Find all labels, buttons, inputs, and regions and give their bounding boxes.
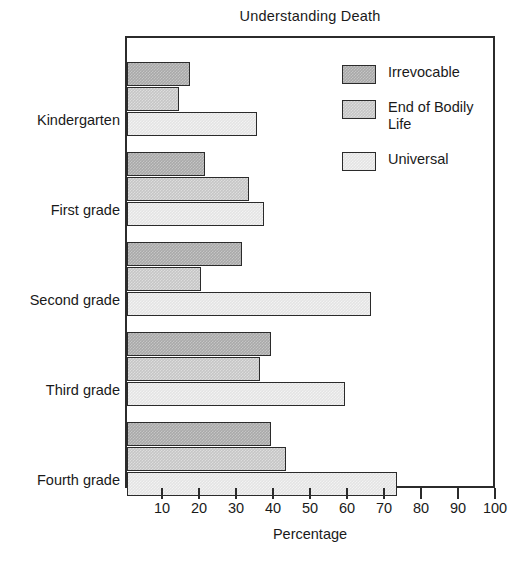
bar-irrevocable: [127, 152, 205, 176]
chart-container: Understanding Death Kindergarten First g…: [0, 0, 528, 564]
legend-label: End of Bodily Life: [388, 99, 473, 133]
bar-irrevocable: [127, 332, 271, 356]
x-axis-tick: [494, 488, 496, 499]
legend-entry: Irrevocable: [342, 64, 460, 84]
x-axis-tick-label: 30: [228, 500, 244, 516]
legend-label: Irrevocable: [388, 64, 460, 81]
x-axis-title: Percentage: [125, 526, 495, 542]
x-axis-tick: [161, 488, 163, 499]
x-axis-tick: [235, 488, 237, 499]
x-axis-tick-label: 70: [376, 500, 392, 516]
legend-entry: End of Bodily Life: [342, 99, 473, 133]
category-axis-labels: Kindergarten First grade Second grade Th…: [0, 36, 120, 488]
x-axis-tick-label: 40: [265, 500, 281, 516]
category-label: Kindergarten: [0, 112, 120, 128]
bar-end-of-bodily-life: [127, 447, 286, 471]
x-axis-tick-label: 20: [191, 500, 207, 516]
x-axis-tick: [272, 488, 274, 499]
x-axis-tick-label: 100: [483, 500, 507, 516]
legend-label: Universal: [388, 151, 448, 168]
x-axis-tick: [309, 488, 311, 499]
x-axis-tick: [198, 488, 200, 499]
x-axis-tick-labels: 102030405060708090100: [125, 500, 495, 522]
legend-entry: Universal: [342, 151, 448, 171]
x-axis-tick-label: 10: [154, 500, 170, 516]
legend-swatch-end-of-bodily-life: [342, 100, 376, 119]
bar-end-of-bodily-life: [127, 267, 201, 291]
x-axis-tick: [420, 488, 422, 499]
x-axis-tick-label: 80: [413, 500, 429, 516]
category-label: Third grade: [0, 382, 120, 398]
bar-end-of-bodily-life: [127, 357, 260, 381]
bar-universal: [127, 382, 345, 406]
bar-irrevocable: [127, 242, 242, 266]
chart-title: Understanding Death: [125, 8, 495, 24]
plot-frame: Irrevocable End of Bodily Life Universal: [125, 36, 495, 488]
legend-swatch-irrevocable: [342, 65, 376, 84]
category-label: First grade: [0, 202, 120, 218]
bar-irrevocable: [127, 422, 271, 446]
bar-universal: [127, 292, 371, 316]
bar-end-of-bodily-life: [127, 87, 179, 111]
category-label: Second grade: [0, 292, 120, 308]
x-axis-tick: [383, 488, 385, 499]
x-axis-tick: [457, 488, 459, 499]
x-axis-tick-label: 50: [302, 500, 318, 516]
bar-universal: [127, 112, 257, 136]
bar-universal: [127, 202, 264, 226]
x-axis-tick-label: 90: [450, 500, 466, 516]
bar-irrevocable: [127, 62, 190, 86]
legend-swatch-universal: [342, 152, 376, 171]
x-axis-tick-label: 60: [339, 500, 355, 516]
x-axis-ticks: [125, 488, 495, 500]
x-axis-tick: [346, 488, 348, 499]
bar-end-of-bodily-life: [127, 177, 249, 201]
plot-area: Irrevocable End of Bodily Life Universal: [127, 38, 493, 486]
category-label: Fourth grade: [0, 472, 120, 488]
